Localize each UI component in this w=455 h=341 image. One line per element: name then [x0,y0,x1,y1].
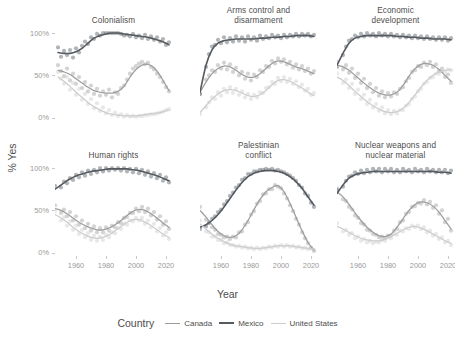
x-tick-label: 2000 [265,261,297,270]
y-tickmark [52,168,55,169]
legend-title: Country [117,317,154,329]
plot-area [55,28,172,121]
trend-line-united-states [200,80,314,113]
legend-entry-canada[interactable]: Canada [165,319,212,328]
x-tickmark [448,256,449,259]
x-tick-label: 1980 [372,261,404,270]
x-tickmark [311,256,312,259]
x-tick-label: 1980 [90,261,122,270]
panel-title: Human rights [55,151,172,161]
legend-line-swatch [165,323,180,324]
x-tickmark [358,256,359,259]
legend-entry-label: Canada [184,319,212,328]
x-tickmark [221,256,222,259]
legend-line-swatch [219,322,234,324]
facet-panel-human-rights: Human rights [55,140,172,256]
x-tickmark [136,256,137,259]
x-tick-label: 2020 [295,261,327,270]
scatter-points-mexico [56,31,171,60]
y-tickmark [52,118,55,119]
x-tick-label: 2020 [432,261,455,270]
x-tickmark [281,256,282,259]
x-axis-label: Year [0,288,455,300]
facet-panel-palestinian-conflict: Palestinian conflict [200,140,317,256]
panel-title: Economic development [337,6,454,25]
x-tick-label: 1960 [205,261,237,270]
x-tick-label: 2000 [402,261,434,270]
trend-line-united-states [200,224,314,249]
y-tickmark [52,33,55,34]
plot-area [337,163,454,256]
scatter-points-mexico [337,167,453,192]
legend-entry-label: United States [290,319,338,328]
facet-panel-colonialism: Colonialism [55,5,172,121]
panel-title: Colonialism [55,16,172,26]
legend-entry-mexico[interactable]: Mexico [219,319,263,328]
x-tickmark [166,256,167,259]
facet-panel-arms-control-and-disarmament: Arms control and disarmament [200,5,317,121]
y-tick-label: 0% [11,248,49,257]
x-tickmark [251,256,252,259]
trend-line-mexico [337,171,451,193]
x-tickmark [388,256,389,259]
y-tick-label: 50% [11,71,49,80]
scatter-points-canada [200,56,316,96]
x-tickmark [76,256,77,259]
panel-title: Nuclear weapons and nuclear material [337,141,454,160]
plot-area [337,28,454,121]
plot-area [55,163,172,256]
legend-line-swatch [271,323,286,324]
trend-line-mexico [337,36,451,66]
y-tickmark [52,210,55,211]
x-tick-label: 1980 [235,261,267,270]
panel-title: Arms control and disarmament [200,6,317,25]
scatter-points-canada [200,183,316,253]
y-tick-label: 50% [11,206,49,215]
y-tick-label: 100% [11,29,49,38]
panel-title: Palestinian conflict [200,141,317,160]
scatter-points-mexico [200,167,316,231]
plot-area [200,28,317,121]
x-tick-label: 1960 [60,261,92,270]
y-tickmark [52,75,55,76]
y-tick-label: 0% [11,113,49,122]
x-tick-label: 2000 [120,261,152,270]
x-tick-label: 1960 [342,261,374,270]
facet-chart: % Yes Year ColonialismArms control and d… [0,0,455,341]
facet-panel-economic-development: Economic development [337,5,454,121]
x-tickmark [418,256,419,259]
x-tick-label: 2020 [150,261,182,270]
x-tickmark [106,256,107,259]
facet-panel-nuclear-weapons-and-nuclear-material: Nuclear weapons and nuclear material [337,140,454,256]
legend-entry-label: Mexico [238,319,263,328]
legend-entry-united-states[interactable]: United States [271,319,338,328]
y-tickmark [52,253,55,254]
legend: Country CanadaMexicoUnited States [0,312,455,334]
plot-area [200,163,317,256]
y-tick-label: 100% [11,164,49,173]
